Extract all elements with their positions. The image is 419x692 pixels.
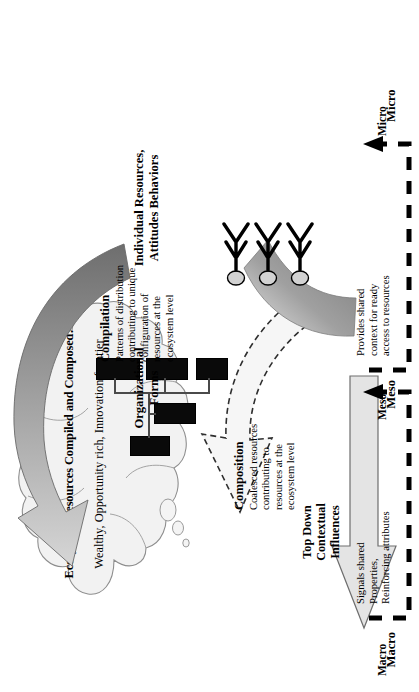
individual-resources-label-line-1: Individual Resources, xyxy=(132,120,147,296)
level-note-meso-line-1: Provides shared xyxy=(355,275,368,356)
org-connector-branch-2 xyxy=(164,378,166,394)
thought-bubble-large xyxy=(160,499,176,521)
individual-resources-label: Individual Resources, Attitudes Behavior… xyxy=(132,120,161,296)
organizational-forms-label: Organizational Forms xyxy=(132,336,161,440)
org-box-leaf-3 xyxy=(196,358,228,380)
level-brackets: Macro Meso Micro Macro Signals shared Pr… xyxy=(243,0,419,692)
level-note-macro-line-1: Signals shared xyxy=(355,511,368,604)
individual-resources-label-line-2: Attitudes Behaviors xyxy=(147,120,162,296)
level-label-meso: Meso xyxy=(376,394,388,420)
level-label-macro: Macro xyxy=(376,644,388,676)
level-note-macro: Signals shared Properties, Reinforcing a… xyxy=(355,511,393,604)
thought-bubble-medium xyxy=(173,521,184,535)
compilation-body-line-1: Patterns of distribution xyxy=(114,265,126,362)
level-note-macro-line-3: Reinforcing attributes xyxy=(380,511,393,604)
organizational-forms-label-line-2: Forms xyxy=(147,336,162,440)
organizational-forms-label-line-1: Organizational xyxy=(132,336,147,440)
level-note-meso-line-2: context for ready xyxy=(368,275,381,356)
level-note-meso: Provides shared context for ready access… xyxy=(355,275,393,356)
level-note-meso-line-3: access to resources xyxy=(380,275,393,356)
level-label-micro: Micro xyxy=(376,106,388,136)
bracket-meso-arrowhead xyxy=(363,136,383,152)
diagram-canvas: Ecosystem Resources Compiled and Compose… xyxy=(0,0,419,692)
org-connector-vertical-spine xyxy=(114,392,210,394)
compilation-body-line-5: ecosystem level xyxy=(164,265,176,362)
level-note-macro-line-2: Properties, xyxy=(368,511,381,604)
org-connector-branch-3 xyxy=(208,378,210,394)
thought-bubble-small xyxy=(183,539,189,547)
compilation-title: Compilation xyxy=(98,295,113,362)
org-connector-branch-1 xyxy=(114,378,116,394)
